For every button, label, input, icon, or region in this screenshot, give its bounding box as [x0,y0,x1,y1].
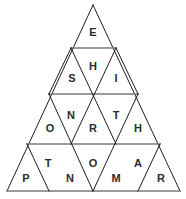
cell-letter-r4c3: N [66,172,74,184]
cell-letter-r3c5: H [134,122,142,134]
cell-letter-r4c4: O [89,157,98,169]
cell-letters-group: E S H I O N R T H P T N O M A R [22,26,165,184]
cell-letter-r4c1: P [22,172,29,184]
cell-letter-r4c5: M [111,172,120,184]
cell-letter-r3c1: O [46,122,55,134]
triangle-puzzle-diagram: E S H I O N R T H P T N O M A R [0,0,186,199]
cell-letter-r3c3: R [89,122,97,134]
cell-letter-r2c1: S [68,72,75,84]
cell-letter-r1c1: E [89,26,96,38]
cell-letter-r3c4: T [113,109,120,121]
right-leaning-edge-1 [116,48,138,94]
cell-letter-r2c2: H [89,60,97,72]
cell-letter-r3c2: N [67,109,75,121]
triangle-puzzle-stage: E S H I O N R T H P T N O M A R [0,0,186,199]
cell-letter-r2c3: I [114,72,117,84]
cell-letter-r4c2: T [45,157,52,169]
cell-letter-r4c7: R [157,172,165,184]
cell-letter-r4c6: A [134,157,142,169]
